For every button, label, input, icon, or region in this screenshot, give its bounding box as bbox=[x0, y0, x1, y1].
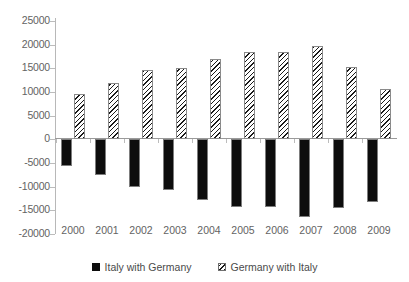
chart-legend: Italy with Germany Germany with Italy bbox=[0, 261, 409, 273]
y-axis-tick-mark bbox=[50, 187, 55, 188]
x-axis-tick-label: 2009 bbox=[357, 225, 401, 236]
x-axis-tick-mark bbox=[56, 139, 57, 143]
bar-germany-with-italy bbox=[346, 67, 357, 139]
x-axis-tick-mark bbox=[260, 139, 261, 143]
y-axis-tick-label: 25000 bbox=[0, 15, 50, 26]
y-axis-tick-mark bbox=[50, 92, 55, 93]
y-axis-tick-label: -5000 bbox=[0, 157, 50, 168]
legend-label-germany-with-italy: Germany with Italy bbox=[231, 261, 318, 273]
bar-germany-with-italy bbox=[176, 68, 187, 139]
x-axis-tick-mark bbox=[192, 139, 193, 143]
bar-italy-with-germany bbox=[367, 139, 378, 202]
x-axis-tick-mark bbox=[158, 139, 159, 143]
y-axis-tick-label: 20000 bbox=[0, 39, 50, 50]
bar-italy-with-germany bbox=[61, 139, 72, 166]
y-axis-tick-label: -20000 bbox=[0, 228, 50, 239]
legend-label-italy-with-germany: Italy with Germany bbox=[105, 261, 192, 273]
bar-chart: 2500020000150001000050000-5000-10000-150… bbox=[0, 0, 409, 282]
y-axis-tick-mark bbox=[50, 116, 55, 117]
bar-germany-with-italy bbox=[244, 52, 255, 139]
x-axis-tick-mark bbox=[124, 139, 125, 143]
y-axis-tick-mark bbox=[50, 210, 55, 211]
bar-italy-with-germany bbox=[197, 139, 208, 200]
bar-italy-with-germany bbox=[129, 139, 140, 187]
bar-italy-with-germany bbox=[333, 139, 344, 208]
y-axis-tick-mark bbox=[50, 139, 55, 140]
y-axis-tick-label: 10000 bbox=[0, 86, 50, 97]
bar-italy-with-germany bbox=[163, 139, 174, 190]
x-axis-tick-mark bbox=[226, 139, 227, 143]
bar-germany-with-italy bbox=[312, 46, 323, 139]
x-axis-tick-mark bbox=[90, 139, 91, 143]
x-axis-tick-mark bbox=[328, 139, 329, 143]
x-axis-tick-mark bbox=[362, 139, 363, 143]
y-axis-tick-label: -10000 bbox=[0, 181, 50, 192]
legend-item-germany-with-italy: Germany with Italy bbox=[218, 261, 318, 273]
bar-italy-with-germany bbox=[265, 139, 276, 207]
bar-germany-with-italy bbox=[142, 70, 153, 139]
x-axis-tick-mark bbox=[294, 139, 295, 143]
y-axis-line bbox=[55, 18, 56, 234]
bar-italy-with-germany bbox=[95, 139, 106, 175]
bar-italy-with-germany bbox=[231, 139, 242, 206]
bar-germany-with-italy bbox=[210, 59, 221, 139]
bar-germany-with-italy bbox=[74, 94, 85, 139]
y-axis-tick-mark bbox=[50, 21, 55, 22]
legend-swatch-solid-icon bbox=[92, 263, 100, 271]
bar-germany-with-italy bbox=[380, 89, 391, 140]
y-axis-tick-label: 15000 bbox=[0, 62, 50, 73]
y-axis-tick-mark bbox=[50, 68, 55, 69]
bar-germany-with-italy bbox=[278, 52, 289, 139]
y-axis-tick-label: 0 bbox=[0, 133, 50, 144]
bar-germany-with-italy bbox=[108, 83, 119, 140]
y-axis-tick-mark bbox=[50, 45, 55, 46]
legend-swatch-hatch-icon bbox=[218, 263, 226, 271]
y-axis-tick-label: 5000 bbox=[0, 110, 50, 121]
y-axis-tick-label: -15000 bbox=[0, 204, 50, 215]
bar-italy-with-germany bbox=[299, 139, 310, 217]
y-axis-tick-mark bbox=[50, 163, 55, 164]
legend-item-italy-with-germany: Italy with Germany bbox=[92, 261, 192, 273]
